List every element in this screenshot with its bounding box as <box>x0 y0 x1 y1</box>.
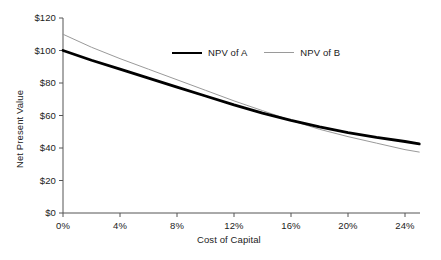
x-tick-label: 12% <box>214 220 254 231</box>
legend-label-npv-a: NPV of A <box>208 47 247 58</box>
series-line-npv-a <box>63 51 419 144</box>
y-tick-label: $100 <box>34 45 56 56</box>
x-tick-label: 24% <box>385 220 425 231</box>
legend-entry-npv-a: NPV of A <box>172 47 247 58</box>
y-tick-label: $20 <box>40 175 56 186</box>
y-tick-label: $0 <box>45 207 56 218</box>
x-tick-label: 0% <box>43 220 83 231</box>
x-tick-label: 4% <box>100 220 140 231</box>
x-axis-title: Cost of Capital <box>197 234 261 245</box>
x-tick-label: 20% <box>328 220 368 231</box>
chart-legend: NPV of A NPV of B <box>172 47 340 58</box>
legend-line-swatch-a <box>172 52 202 54</box>
legend-entry-npv-b: NPV of B <box>264 47 340 58</box>
y-tick-label: $120 <box>34 12 56 23</box>
y-tick-marks <box>59 18 63 213</box>
y-tick-label: $80 <box>40 77 56 88</box>
legend-line-swatch-b <box>264 52 294 53</box>
chart-container: $0$20$40$60$80$100$120 0%4%8%12%16%20%24… <box>0 0 441 260</box>
y-tick-label: $60 <box>40 110 56 121</box>
x-tick-marks <box>63 213 405 217</box>
y-tick-label: $40 <box>40 142 56 153</box>
y-axis-title: Net Present Value <box>14 90 25 168</box>
x-tick-label: 16% <box>271 220 311 231</box>
legend-label-npv-b: NPV of B <box>300 47 340 58</box>
x-tick-label: 8% <box>157 220 197 231</box>
